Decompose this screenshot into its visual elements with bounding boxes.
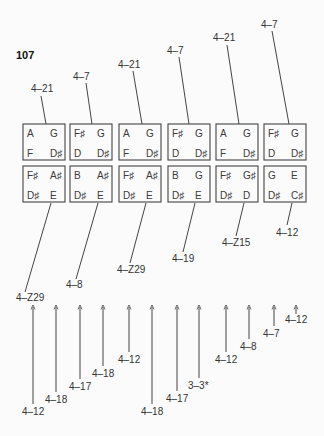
top-label: 4–7 [73,71,90,82]
note: G♯ [243,170,256,181]
note: F♯ [172,128,183,139]
arrow-label: 4–12 [22,406,45,417]
top-box-2: 4–7 F♯ G D D♯ [70,71,112,160]
note: F [123,148,129,159]
note: D [74,148,81,159]
arrow-11: 4–7 [263,307,280,339]
note: G [97,128,105,139]
figure-number: 107 [16,49,34,61]
arrow-10: 4–8 [240,307,257,352]
bottom-box-6: G E D♯ C♯ 4–12 [264,166,306,238]
note: F [220,148,226,159]
bottom-label: 4–Z15 [222,237,251,248]
arrow-9: 4–12 [215,307,238,365]
note: A♯ [97,170,109,181]
top-label: 4–21 [31,83,54,94]
note: B [74,170,81,181]
note: D♯ [123,190,135,201]
note: D♯ [74,190,86,201]
note: G [268,170,276,181]
top-box-5: 4–21 A G F D♯ [213,32,258,160]
top-label: 4–21 [213,32,236,43]
arrow-6: 4–18 [141,307,164,417]
note: D♯ [220,190,232,201]
note: D♯ [268,190,280,201]
note: E [50,190,57,201]
arrow-7: 4–17 [166,307,189,404]
arrow-label: 4–12 [118,354,141,365]
note: D♯ [195,148,207,159]
note: E [97,190,104,201]
top-box-4: 4–7 F♯ G D D♯ [167,45,210,160]
bottom-box-2: B A♯ D♯ E 4–8 [66,166,112,290]
note: D♯ [97,148,109,159]
top-label: 4–7 [167,45,184,56]
arrow-label: 4–18 [45,394,68,405]
bottom-box-4: B G D♯ E 4–19 [168,166,210,264]
arrow-label: 4–17 [69,381,92,392]
note: G [50,128,58,139]
top-label: 4–21 [118,59,141,70]
bottom-label: 4–Z29 [117,264,146,275]
note: B [172,170,179,181]
arrow-label: 4–12 [285,314,308,325]
arrow-3: 4–17 [69,307,92,392]
note: F [27,148,33,159]
note: F♯ [220,170,231,181]
note: A [123,128,130,139]
arrow-label: 4–18 [141,406,164,417]
arrow-12: 4–12 [285,307,308,325]
note: D♯ [146,148,158,159]
note: D [268,148,275,159]
note: A♯ [50,170,62,181]
bottom-box-5: F♯ G♯ D♯ D 4–Z15 [216,166,258,248]
note: E [195,190,202,201]
set-class-diagram: 107 4–21 A G F D♯ 4–7 F♯ G D D♯ 4–21 A G… [0,0,324,436]
note: D [172,148,179,159]
note: A [27,128,34,139]
note: D♯ [50,148,62,159]
arrow-label: 4–12 [215,354,238,365]
arrow-label: 4–7 [263,328,280,339]
note: G [243,128,251,139]
note: F♯ [123,170,134,181]
bottom-label: 4–8 [66,279,83,290]
bottom-label: 4–19 [172,253,195,264]
arrow-1: 4–12 [22,307,45,417]
note: F♯ [27,170,38,181]
note: E [146,190,153,201]
arrow-2: 4–18 [45,307,68,405]
note: C♯ [291,190,303,201]
note: D♯ [243,148,255,159]
top-box-3: 4–21 A G F D♯ [118,59,161,160]
note: F♯ [74,128,85,139]
note: D [243,190,250,201]
arrow-label: 4–18 [92,368,115,379]
top-box-6: 4–7 F♯ G D D♯ [261,19,306,160]
note: D♯ [291,148,303,159]
note: D♯ [172,190,184,201]
note: E [291,170,298,181]
note: G [195,128,203,139]
bottom-label: 4–12 [276,227,299,238]
note: G [291,128,299,139]
arrow-4: 4–18 [92,307,115,379]
arrow-5: 4–12 [118,307,141,365]
top-label: 4–7 [261,19,278,30]
note: A♯ [146,170,158,181]
note: G [195,170,203,181]
bottom-label: 4–Z29 [16,292,45,303]
arrow-label: 4–8 [240,341,257,352]
arrow-8: 3–3* [188,307,209,391]
bottom-box-1: F♯ A♯ D♯ E 4–Z29 [16,166,65,303]
note: D♯ [27,190,39,201]
bottom-box-3: F♯ A♯ D♯ E 4–Z29 [117,166,161,275]
arrow-label: 3–3* [188,380,209,391]
note: G [146,128,154,139]
note: F♯ [268,128,279,139]
top-box-1: 4–21 A G F D♯ [23,83,65,160]
note: A [220,128,227,139]
arrow-label: 4–17 [166,393,189,404]
